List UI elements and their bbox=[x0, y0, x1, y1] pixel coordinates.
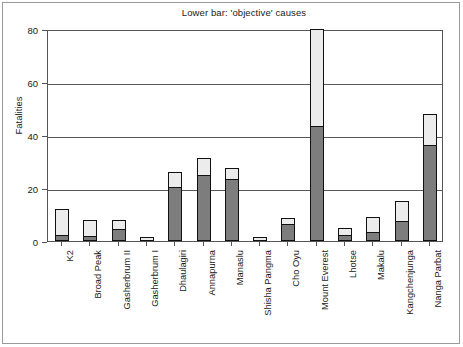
plot-area bbox=[47, 30, 443, 242]
bar-segment-objective[interactable] bbox=[169, 187, 181, 240]
x-tick-label: Annapurna bbox=[207, 250, 217, 296]
x-tick-mark bbox=[316, 242, 317, 246]
x-tick-label: Lhotse bbox=[348, 250, 358, 278]
bar-segment-objective[interactable] bbox=[113, 229, 125, 240]
bar-slot bbox=[366, 31, 380, 241]
x-tick-label: Kangchenjunga bbox=[405, 250, 415, 315]
bar-segment-objective[interactable] bbox=[367, 232, 379, 240]
bar-stack[interactable] bbox=[112, 220, 126, 241]
x-axis-labels: K2Broad PeakGasherbrum IIGasherbrum IDha… bbox=[47, 244, 443, 344]
bar-stack[interactable] bbox=[395, 201, 409, 241]
bar-slot bbox=[168, 31, 182, 241]
bar-stack[interactable] bbox=[338, 228, 352, 241]
bar-slot bbox=[225, 31, 239, 241]
bar-segment-objective[interactable] bbox=[282, 224, 294, 240]
x-tick-mark bbox=[259, 242, 260, 246]
bar-segment-objective[interactable] bbox=[339, 235, 351, 240]
x-tick-mark bbox=[429, 242, 430, 246]
bar-segment-objective[interactable] bbox=[311, 126, 323, 240]
x-tick-mark bbox=[89, 242, 90, 246]
chart-figure: Lower bar: 'objective' causes Fatalities… bbox=[0, 0, 463, 347]
bar-stack[interactable] bbox=[281, 218, 295, 241]
x-tick-label: Broad Peak bbox=[93, 250, 103, 299]
bar-slot bbox=[253, 31, 267, 241]
x-tick-label: K2 bbox=[65, 250, 75, 261]
bar-segment-objective[interactable] bbox=[84, 236, 96, 240]
x-tick-label: Mount Everest bbox=[320, 250, 330, 310]
x-tick-mark bbox=[118, 242, 119, 246]
x-tick-mark bbox=[401, 242, 402, 246]
x-tick-label: Makalu bbox=[376, 250, 386, 280]
bar-slot bbox=[310, 31, 324, 241]
x-tick-label: Shisha Pangma bbox=[263, 250, 273, 316]
bar-slot bbox=[338, 31, 352, 241]
bar-slot bbox=[395, 31, 409, 241]
bar-stack[interactable] bbox=[168, 172, 182, 241]
bar-stack[interactable] bbox=[83, 220, 97, 241]
x-tick-label: Manaslu bbox=[235, 250, 245, 285]
y-tick-label: 20 bbox=[27, 184, 38, 195]
bars-layer bbox=[48, 31, 442, 241]
bar-slot bbox=[281, 31, 295, 241]
y-tick-label: 80 bbox=[27, 25, 38, 36]
bar-segment-objective[interactable] bbox=[396, 221, 408, 240]
bar-segment-objective[interactable] bbox=[226, 179, 238, 240]
bar-slot bbox=[55, 31, 69, 241]
x-tick-label: Gasherbrum II bbox=[122, 250, 132, 309]
bar-segment-objective[interactable] bbox=[198, 175, 210, 240]
x-tick-label: Nanga Parbat bbox=[433, 250, 443, 307]
x-tick-label: Gasherbrum I bbox=[150, 250, 160, 307]
x-tick-mark bbox=[287, 242, 288, 246]
x-tick-mark bbox=[203, 242, 204, 246]
y-tick-label: 40 bbox=[27, 131, 38, 142]
x-tick-mark bbox=[174, 242, 175, 246]
y-tick-label: 0 bbox=[33, 237, 38, 248]
bar-stack[interactable] bbox=[197, 158, 211, 241]
bar-stack[interactable] bbox=[366, 217, 380, 241]
bar-stack[interactable] bbox=[140, 237, 154, 241]
bar-slot bbox=[197, 31, 211, 241]
bar-slot bbox=[83, 31, 97, 241]
bar-segment-objective[interactable] bbox=[424, 145, 436, 240]
bar-slot bbox=[423, 31, 437, 241]
x-tick-mark bbox=[146, 242, 147, 246]
x-tick-label: Dhaulagiri bbox=[178, 250, 188, 292]
bar-stack[interactable] bbox=[253, 237, 267, 241]
chart-title: Lower bar: 'objective' causes bbox=[44, 7, 444, 18]
y-tick-label: 60 bbox=[27, 78, 38, 89]
y-axis-ticks: 020406080 bbox=[0, 30, 47, 242]
bar-stack[interactable] bbox=[225, 168, 239, 241]
x-tick-label: Cho Oyu bbox=[291, 250, 301, 287]
bar-stack[interactable] bbox=[423, 114, 437, 241]
x-tick-mark bbox=[372, 242, 373, 246]
bar-stack[interactable] bbox=[310, 29, 324, 241]
bar-slot bbox=[140, 31, 154, 241]
x-tick-mark bbox=[61, 242, 62, 246]
x-tick-mark bbox=[344, 242, 345, 246]
bar-segment-objective[interactable] bbox=[56, 235, 68, 240]
x-tick-mark bbox=[231, 242, 232, 246]
bar-slot bbox=[112, 31, 126, 241]
bar-stack[interactable] bbox=[55, 209, 69, 241]
